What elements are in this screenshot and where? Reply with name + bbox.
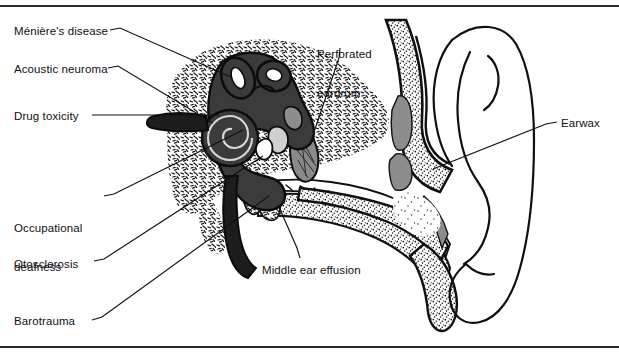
label-barotrauma: Barotrauma [14,315,75,328]
label-otosclerosis: Otosclerosis [14,258,78,271]
label-middle-ear-effusion: Middle ear effusion [262,264,361,277]
label-menieres-disease: Ménière's disease [14,25,108,38]
label-occupational-deafness-line1: Occupational [14,222,82,235]
label-perforated-eardrum-line1: Perforated [317,48,372,61]
label-perforated-eardrum: Perforated eardrum [317,22,372,126]
label-perforated-eardrum-line2: eardrum [317,87,372,100]
vestibulocochlear-nerve [147,113,208,131]
label-occupational-deafness: Occupational deafness [14,196,82,300]
label-earwax: Earwax [561,117,600,130]
leader-earwax [433,122,557,169]
ear-cross-section-illustration [0,0,619,353]
label-acoustic-neuroma: Acoustic neuroma [14,63,108,76]
label-drug-toxicity: Drug toxicity [14,110,79,123]
ear-anatomy-figure: Ménière's disease Acoustic neuroma Drug … [0,0,619,353]
cochlea [202,110,258,166]
